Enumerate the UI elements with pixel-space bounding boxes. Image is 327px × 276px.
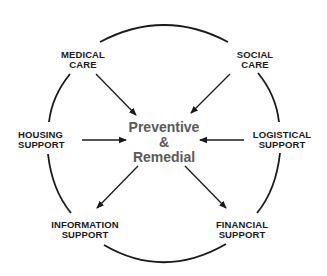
node-label-line: SUPPORT [250,140,314,150]
arc-right-lower [257,153,280,213]
node-label-line: CARE [58,60,108,70]
node-information-support: INFORMATION SUPPORT [46,220,124,240]
arc-left-lower [48,154,71,213]
node-label-line: SUPPORT [212,230,272,240]
arrow-center-to-information [97,166,138,208]
node-label-line: SUPPORT [46,230,124,240]
arrow-center-to-financial [185,166,226,208]
center-label-preventive-remedial: Preventive & Remedial [104,120,224,165]
node-social-care: SOCIAL CARE [230,50,280,70]
node-label-line: SUPPORT [18,140,70,150]
arc-right-upper [258,73,279,122]
arrow-medical-to-center [96,74,136,115]
node-financial-support: FINANCIAL SUPPORT [212,220,272,240]
node-logistical-support: LOGISTICAL SUPPORT [250,130,314,150]
center-line-2: & [104,135,224,150]
center-line-3: Remedial [104,150,224,165]
node-housing-support: HOUSING SUPPORT [18,130,70,150]
arrow-social-to-center [191,74,230,113]
center-line-1: Preventive [104,120,224,135]
node-medical-care: MEDICAL CARE [58,50,108,70]
node-label-line: CARE [230,60,280,70]
arc-left-upper [49,74,70,122]
arc-bottom [104,244,226,262]
arc-top [100,25,228,42]
